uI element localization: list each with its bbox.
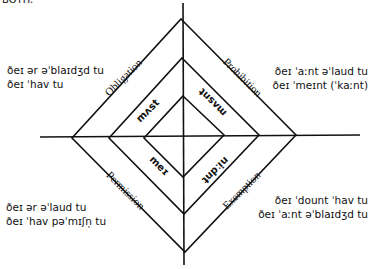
phrases-permission: ðeɪ ər əˈlaud tu ðeɪ ˈhav pəˈmɪʃn̩ tu (6, 200, 106, 228)
phrase-line: ðeɪ ˈaːnt əˈlaud tu (273, 64, 368, 78)
phrases-prohibition: ðeɪ ˈaːnt əˈlaud tu ðeɪ ˈmeɪnt (ˈkaːnt) (273, 64, 368, 92)
label-exemption: Exemption (220, 169, 263, 212)
phrase-line: ðeɪ ər əˈlaud tu (6, 200, 106, 214)
diamond-figure: Obligation Prohibition Permission Exempt… (0, 0, 374, 269)
modality-diamond-diagram: BOTH. Obligation Prohibition Permission … (0, 0, 374, 269)
phrase-line: ðeɪ ˈhav pəˈmɪʃn̩ tu (6, 214, 106, 228)
phrase-line: ðeɪ ˈaːnt əˈblaɪdʒd tu (258, 207, 368, 221)
phrase-line: ðeɪ ˈdount ˈhav tu (258, 193, 368, 207)
modal-must: mʌst (134, 97, 161, 124)
label-obligation: Obligation (102, 56, 144, 98)
phrase-line: ðeɪ ˈhav tu (7, 77, 104, 91)
phrases-exemption: ðeɪ ˈdount ˈhav tu ðeɪ ˈaːnt əˈblaɪdʒd t… (258, 193, 368, 221)
vertical-axis (183, 3, 184, 265)
label-prohibition: Prohibition (221, 55, 265, 99)
horizontal-axis (40, 135, 360, 137)
label-permission: Permission (104, 169, 147, 212)
modal-may: meɪ (148, 154, 172, 178)
phrases-obligation: ðeɪ ər əˈblaɪdʒd tu ðeɪ ˈhav tu (7, 63, 104, 91)
phrase-line: ðeɪ ər əˈblaɪdʒd tu (7, 63, 104, 77)
phrase-line: ðeɪ ˈmeɪnt (ˈkaːnt) (273, 78, 368, 92)
